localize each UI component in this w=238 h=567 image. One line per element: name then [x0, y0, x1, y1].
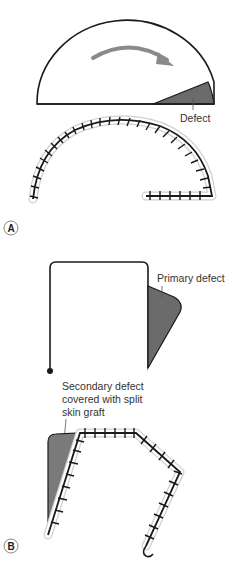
panel-b: Primary defect Secondary defect covered … [4, 262, 225, 557]
primary-defect-label: Primary defect [157, 272, 225, 284]
flap-pivot-point [47, 368, 53, 374]
defect-label: Defect [180, 112, 210, 124]
defect-region [153, 82, 214, 104]
flap-diagram: Defect [0, 0, 238, 567]
secondary-defect-label: Secondary defect covered with split skin… [62, 380, 147, 418]
sutured-closure-a [30, 117, 212, 200]
transposition-flap-outline [50, 262, 148, 370]
panel-a: Defect [4, 20, 214, 235]
rotation-arrow-icon [93, 47, 167, 60]
primary-defect-region [148, 286, 181, 368]
stitches-a [30, 117, 211, 200]
panel-b-letter: B [7, 541, 14, 552]
panel-a-letter: A [7, 223, 14, 234]
rotation-arrowhead-icon [156, 52, 174, 66]
